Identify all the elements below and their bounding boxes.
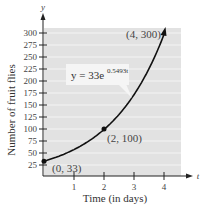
x-tick-label: 1 [72, 182, 77, 192]
chart: 255075100125150175200225250275300 1234 y… [0, 0, 204, 214]
x-tick-label: 4 [162, 182, 167, 192]
data-point [102, 127, 107, 132]
equation-exponent: 0.5493t [107, 67, 128, 75]
x-axis-var: t [197, 171, 200, 181]
y-tick-label: 250 [24, 52, 38, 62]
y-tick-label: 225 [24, 64, 38, 74]
y-tick-label: 150 [24, 100, 38, 110]
y-axis-var: y [40, 2, 45, 12]
y-tick-label: 125 [24, 112, 38, 122]
y-tick-label: 25 [28, 160, 38, 170]
point-label: (0, 33) [52, 162, 82, 175]
y-axis-arrow-icon [41, 13, 46, 20]
y-tick-label: 75 [28, 136, 38, 146]
equation-base: y = 33e [71, 69, 104, 81]
y-tick-label: 100 [24, 124, 38, 134]
point-label: (2, 100) [107, 132, 142, 145]
y-axis-title: Number of fruit flies [5, 64, 17, 155]
y-tick-label: 300 [24, 28, 38, 38]
x-axis-arrow-icon [186, 174, 193, 179]
y-tick-label: 50 [28, 148, 38, 158]
y-tick-label: 175 [24, 88, 38, 98]
x-axis-title: Time (in days) [83, 192, 148, 205]
x-tick-label: 3 [132, 182, 137, 192]
x-tick-label: 2 [102, 182, 107, 192]
data-point [42, 159, 47, 164]
y-tick-label: 275 [24, 40, 38, 50]
point-label: (4, 300) [126, 28, 161, 41]
y-tick-label: 200 [24, 76, 38, 86]
